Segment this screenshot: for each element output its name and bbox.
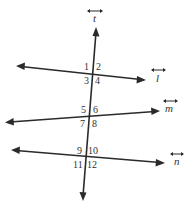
line-name-n: n [174,155,180,167]
arrowhead-icon [16,63,25,71]
angle-label: 11 [73,159,83,170]
label-t: t [87,9,103,24]
arrowhead-icon [5,118,14,126]
angle-label: 9 [77,145,82,156]
angle-label: 10 [88,145,98,156]
angle-label: 6 [93,104,98,115]
angle-label: 8 [92,118,97,129]
arrowhead-icon [137,76,147,84]
line-l [16,63,146,84]
arrowhead-icon [151,108,160,116]
arrowhead-icon [93,27,100,37]
label-m: m [163,99,178,114]
parallel-lines-diagram: t l 1 2 3 4 m 5 6 7 8 [0,0,194,210]
line-name-l: l [156,72,159,84]
angle-label: 12 [87,159,97,170]
label-l: l [151,68,166,84]
angle-label: 7 [80,118,85,129]
label-n: n [170,152,184,167]
angle-label: 3 [84,75,89,86]
arrowhead-icon [80,192,87,201]
arrowhead-icon [156,159,166,167]
line-name-m: m [165,102,173,114]
angle-label: 5 [81,104,86,115]
angle-label: 2 [96,61,101,72]
angle-label: 4 [95,75,100,86]
line-name-t: t [93,12,97,24]
arrowhead-icon [11,147,20,155]
angle-label: 1 [84,61,89,72]
